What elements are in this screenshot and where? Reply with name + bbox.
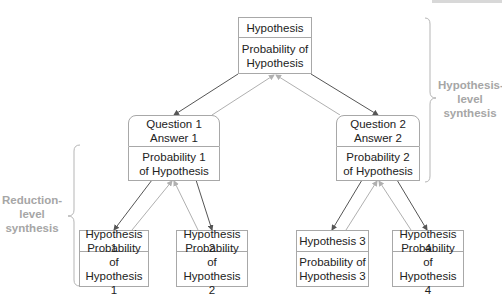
root-hypothesis-node: Hypothesis Probability of Hypothesis <box>238 17 312 74</box>
root-hypothesis-probability: Probability of Hypothesis <box>238 38 312 74</box>
leaf-hypothesis-3: Hypothesis 3 Probability of Hypothesis 3 <box>296 230 369 287</box>
leaf-1-probability: Probability of Hypothesis 1 <box>79 252 149 287</box>
reduction-level-synthesis-label: Reduction- level synthesis <box>2 193 62 235</box>
leaf-3-probability: Probability of Hypothesis 3 <box>296 252 369 287</box>
leaf-3-title: Hypothesis 3 <box>296 230 369 252</box>
leaf-4-probability: Probability of Hypothesis 4 <box>392 252 464 287</box>
hypothesis-level-synthesis-label: Hypothesis- level synthesis <box>438 78 502 120</box>
leaf-hypothesis-4: Hypothesis 4 Probability of Hypothesis 4 <box>392 230 464 287</box>
leaf-2-probability: Probability of Hypothesis 2 <box>176 252 248 287</box>
question-1-probability: Probability 1 of Hypothesis <box>128 147 220 181</box>
root-hypothesis-title: Hypothesis <box>238 17 312 38</box>
question-2-title: Question 2 Answer 2 <box>336 115 420 147</box>
question-1-node: Question 1 Answer 1 Probability 1 of Hyp… <box>128 115 220 181</box>
question-2-probability: Probability 2 of Hypothesis <box>336 147 420 181</box>
question-1-title: Question 1 Answer 1 <box>128 115 220 147</box>
leaf-hypothesis-2: Hypothesis 2 Probability of Hypothesis 2 <box>176 230 248 287</box>
question-2-node: Question 2 Answer 2 Probability 2 of Hyp… <box>336 115 420 181</box>
leaf-hypothesis-1: Hypothesis 1 Probability of Hypothesis 1 <box>79 230 149 287</box>
